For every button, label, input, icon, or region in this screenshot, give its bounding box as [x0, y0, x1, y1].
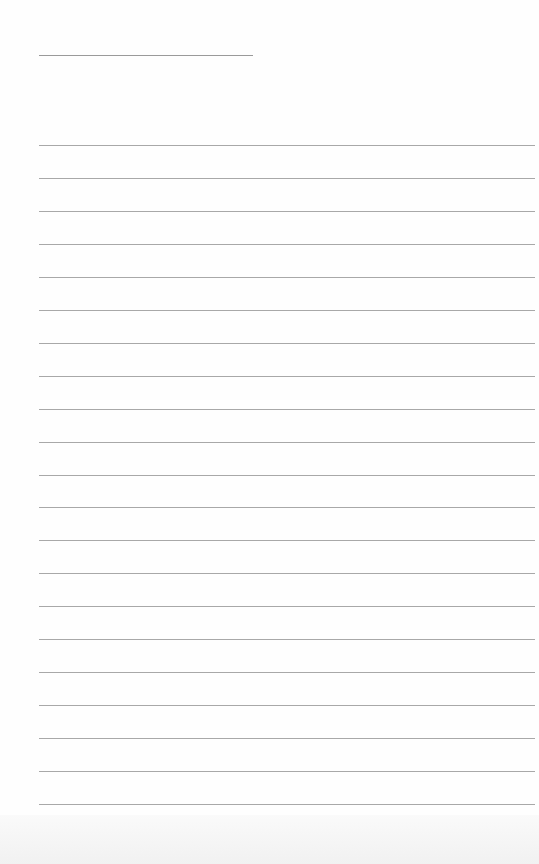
ruled-line: [39, 178, 535, 179]
ruled-line: [39, 540, 535, 541]
ruled-line: [39, 738, 535, 739]
ruled-line: [39, 606, 535, 607]
ruled-line: [39, 639, 535, 640]
ruled-line: [39, 409, 535, 410]
name-line: [39, 55, 253, 56]
ruled-line: [39, 343, 535, 344]
lined-paper-page: [0, 0, 539, 864]
ruled-line: [39, 442, 535, 443]
bottom-margin: [0, 815, 539, 864]
ruled-line: [39, 310, 535, 311]
ruled-line: [39, 804, 535, 805]
ruled-line: [39, 705, 535, 706]
ruled-line: [39, 475, 535, 476]
ruled-line: [39, 211, 535, 212]
ruled-line: [39, 376, 535, 377]
ruled-line: [39, 672, 535, 673]
ruled-line: [39, 573, 535, 574]
ruled-line: [39, 507, 535, 508]
ruled-line: [39, 277, 535, 278]
ruled-line: [39, 771, 535, 772]
ruled-line: [39, 244, 535, 245]
ruled-line: [39, 145, 535, 146]
